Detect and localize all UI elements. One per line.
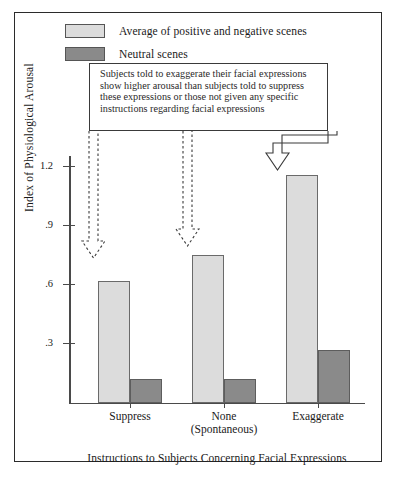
x-category-line1: Exaggerate [292, 410, 344, 422]
y-tick-mark [63, 166, 75, 167]
x-tick-mark [224, 403, 225, 408]
bar-suppress-average [98, 281, 130, 403]
x-axis-title: Instructions to Subjects Concerning Faci… [69, 452, 365, 464]
x-axis-line [69, 403, 365, 405]
bar-none-neutral [224, 379, 256, 403]
x-category-line1: Suppress [109, 410, 151, 422]
y-tick-mark [63, 284, 75, 285]
y-tick-mark [63, 225, 75, 226]
legend-swatch-light [65, 24, 105, 38]
annotation-callout: Subjects told to exaggerate their facial… [89, 63, 328, 131]
legend-item: Average of positive and negative scenes [65, 21, 307, 41]
bar-none-average [192, 255, 224, 403]
legend-swatch-dark [65, 47, 105, 61]
bar-suppress-neutral [130, 379, 162, 403]
y-tick-label: .6 [13, 278, 53, 289]
y-tick-label: .9 [13, 219, 53, 230]
y-axis-title: Index of Physiological Arousal [23, 72, 35, 212]
legend-item: Neutral scenes [65, 44, 307, 64]
annotation-text: Subjects told to exaggerate their facial… [100, 68, 319, 114]
legend: Average of positive and negative scenes … [65, 21, 307, 67]
plot-area: 1.2 .9 .6 .3 Index of Physiological Arou… [69, 156, 365, 404]
legend-label-dark: Neutral scenes [119, 48, 188, 60]
y-tick-mark [63, 343, 75, 344]
y-axis-line [69, 156, 71, 404]
x-tick-mark [130, 403, 131, 408]
figure-frame: Average of positive and negative scenes … [14, 12, 382, 462]
y-tick-label: .3 [13, 337, 53, 348]
x-category-label-exaggerate: Exaggerate [258, 410, 378, 423]
x-category-line2: (Spontaneous) [164, 423, 284, 436]
x-tick-mark [318, 403, 319, 408]
bar-exaggerate-neutral [318, 350, 350, 403]
legend-label-light: Average of positive and negative scenes [119, 25, 307, 37]
bar-exaggerate-average [286, 175, 318, 403]
